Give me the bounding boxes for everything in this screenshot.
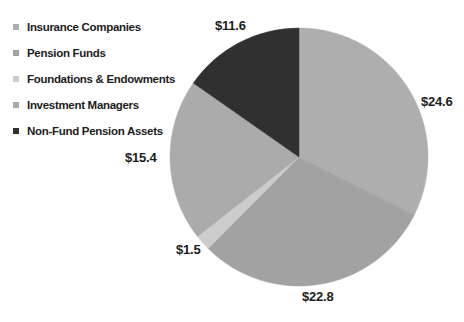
legend-label: Foundations & Endowments	[27, 73, 175, 85]
legend-item-insurance-companies: Insurance Companies	[13, 21, 175, 33]
legend-label: Pension Funds	[27, 47, 106, 59]
pie-chart-figure: Insurance Companies Pension Funds Founda…	[0, 0, 464, 322]
legend-item-pension-funds: Pension Funds	[13, 47, 175, 59]
slice-value-foundations-endowments: $1.5	[176, 242, 201, 257]
slice-value-insurance-companies: $24.6	[421, 94, 453, 109]
slice-value-non-fund-pension-assets: $11.6	[215, 18, 246, 33]
legend-label: Non-Fund Pension Assets	[27, 125, 163, 137]
legend-swatch-icon	[13, 24, 19, 30]
legend-item-non-fund-pension-assets: Non-Fund Pension Assets	[13, 125, 175, 137]
legend-swatch-icon	[13, 128, 19, 134]
legend-swatch-icon	[13, 102, 19, 108]
legend: Insurance Companies Pension Funds Founda…	[13, 21, 175, 151]
slice-value-pension-funds: $22.8	[302, 289, 334, 304]
legend-label: Insurance Companies	[27, 21, 141, 33]
legend-item-investment-managers: Investment Managers	[13, 99, 175, 111]
slice-value-investment-managers: $15.4	[125, 150, 157, 165]
legend-swatch-icon	[13, 50, 19, 56]
legend-item-foundations-endowments: Foundations & Endowments	[13, 73, 175, 85]
legend-swatch-icon	[13, 76, 19, 82]
legend-label: Investment Managers	[27, 99, 139, 111]
